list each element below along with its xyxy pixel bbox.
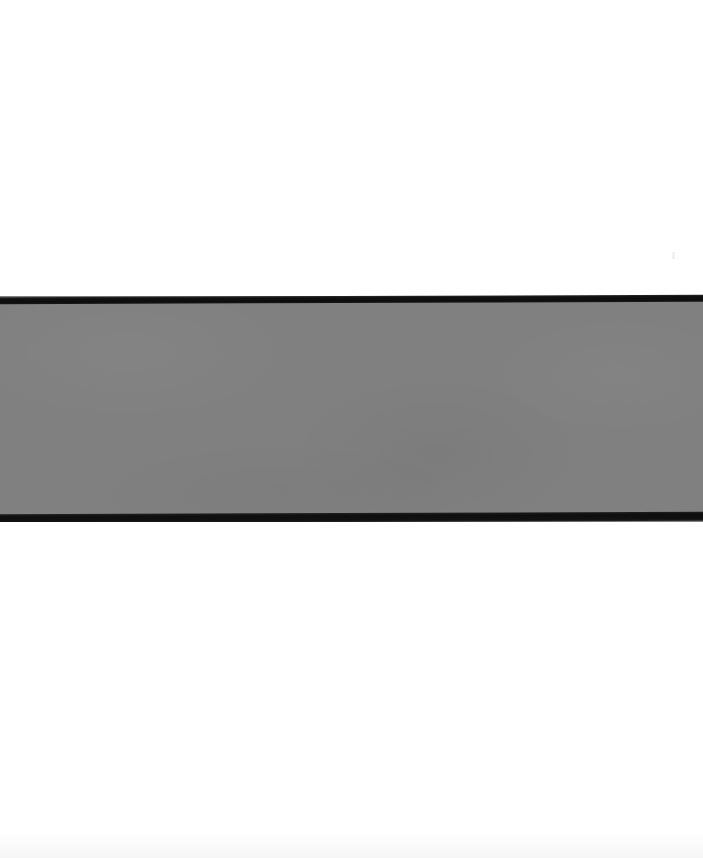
- upper-white-margin: [0, 0, 703, 296]
- scanned-page: [0, 0, 703, 858]
- lower-white-margin: [0, 522, 703, 858]
- gray-band-fill: [0, 296, 703, 522]
- gray-band-group: [0, 296, 703, 522]
